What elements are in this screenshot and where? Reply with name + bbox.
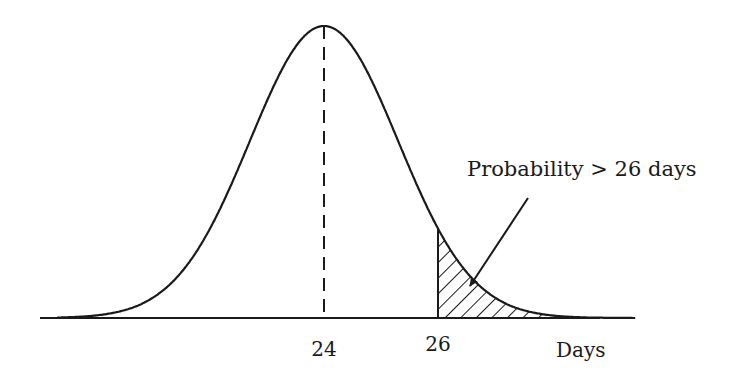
tick-label-26: 26 bbox=[425, 332, 450, 356]
annotation-text: Probability > 26 days bbox=[467, 157, 697, 181]
tick-label-24: 24 bbox=[311, 337, 336, 361]
normal-distribution-chart: 24 26 Days Probability > 26 days bbox=[0, 0, 750, 387]
x-axis-label: Days bbox=[556, 338, 606, 362]
annotation-arrow bbox=[470, 198, 528, 286]
